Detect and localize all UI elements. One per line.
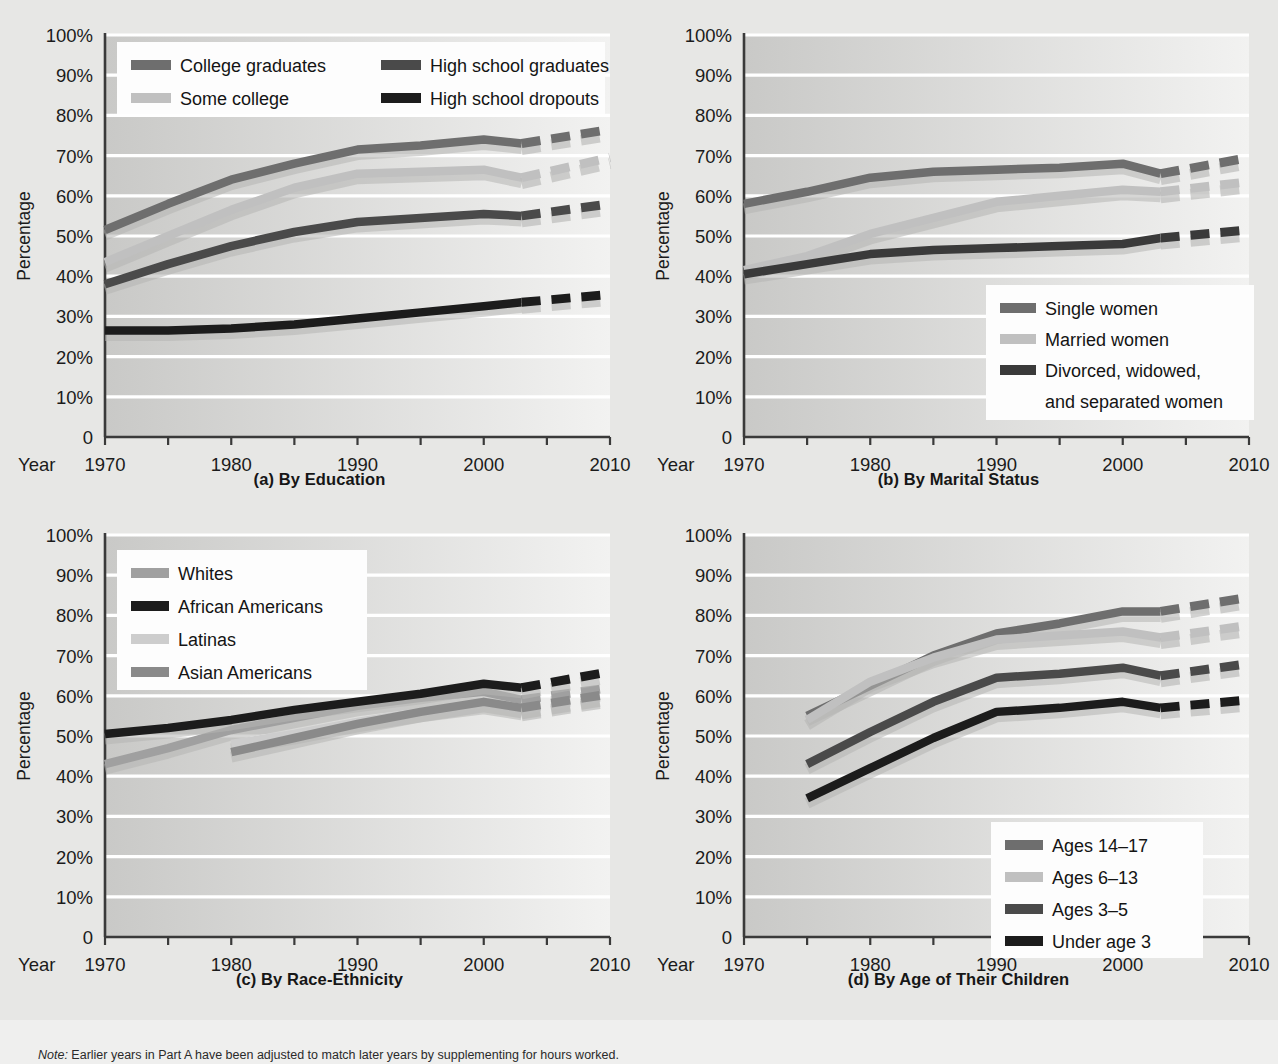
y-tick-label: 20% — [695, 347, 732, 368]
y-tick-label: 40% — [695, 766, 732, 787]
legend-label: College graduates — [180, 56, 326, 76]
note-text: Earlier years in Part A have been adjust… — [68, 1048, 619, 1062]
legend-a: College graduatesHigh school graduatesSo… — [117, 42, 609, 114]
legend-label: High school graduates — [430, 56, 609, 76]
y-tick-label: 20% — [56, 847, 93, 868]
legend-swatch — [131, 93, 171, 103]
legend-label: and separated women — [1045, 392, 1223, 412]
legend-swatch — [131, 667, 169, 677]
chart-svg-c: 100%90%80%70%60%50%40%30%20%10%0Percenta… — [0, 500, 639, 1000]
y-axis-label: Percentage — [14, 191, 34, 281]
legend-swatch — [1005, 840, 1043, 850]
panel-d: 100%90%80%70%60%50%40%30%20%10%0Percenta… — [639, 500, 1278, 1000]
y-tick-label: 40% — [56, 266, 93, 287]
y-tick-label: 70% — [695, 146, 732, 167]
chart-svg-b: 100%90%80%70%60%50%40%30%20%10%0Percenta… — [639, 0, 1278, 500]
legend-c: WhitesAfrican AmericansLatinasAsian Amer… — [117, 550, 367, 690]
y-tick-label: 50% — [695, 226, 732, 247]
y-tick-label: 100% — [685, 525, 732, 546]
y-tick-label: 80% — [56, 605, 93, 626]
y-tick-label: 100% — [46, 525, 93, 546]
panel-b: 100%90%80%70%60%50%40%30%20%10%0Percenta… — [639, 0, 1278, 500]
legend-swatch — [1000, 365, 1036, 375]
legend-swatch — [131, 634, 169, 644]
y-tick-label: 60% — [695, 686, 732, 707]
legend-swatch — [381, 60, 421, 70]
legend-swatch — [1005, 904, 1043, 914]
legend-swatch — [1005, 936, 1043, 946]
legend-swatch — [131, 601, 169, 611]
y-tick-label: 80% — [695, 105, 732, 126]
legend-label: Under age 3 — [1052, 932, 1151, 952]
y-tick-label: 60% — [56, 186, 93, 207]
y-tick-label: 10% — [695, 387, 732, 408]
legend-swatch — [1000, 334, 1036, 344]
y-tick-label: 50% — [56, 726, 93, 747]
y-tick-label: 50% — [695, 726, 732, 747]
y-tick-label: 10% — [56, 887, 93, 908]
y-tick-label: 50% — [56, 226, 93, 247]
panel-b-caption: (b) By Marital Status — [639, 470, 1278, 489]
y-tick-label: 20% — [695, 847, 732, 868]
legend-label: Whites — [178, 564, 233, 584]
legend-label: Married women — [1045, 330, 1169, 350]
y-tick-label: 0 — [83, 927, 93, 948]
y-tick-label: 60% — [56, 686, 93, 707]
note-prefix: Note: — [38, 1048, 68, 1062]
panel-c: 100%90%80%70%60%50%40%30%20%10%0Percenta… — [0, 500, 639, 1000]
y-tick-label: 100% — [685, 25, 732, 46]
y-tick-label: 30% — [695, 806, 732, 827]
legend-label: Ages 3–5 — [1052, 900, 1128, 920]
legend-label: Single women — [1045, 299, 1158, 319]
legend-label: Ages 14–17 — [1052, 836, 1148, 856]
y-tick-label: 30% — [56, 806, 93, 827]
legend-swatch — [131, 568, 169, 578]
chart-svg-a: 100%90%80%70%60%50%40%30%20%10%0Percenta… — [0, 0, 639, 500]
figure-note: Note: Earlier years in Part A have been … — [38, 1048, 1248, 1064]
legend-label: Some college — [180, 89, 289, 109]
panel-a-caption: (a) By Education — [0, 470, 639, 489]
legend-label: Asian Americans — [178, 663, 312, 683]
y-tick-label: 40% — [56, 766, 93, 787]
y-tick-label: 0 — [722, 427, 732, 448]
y-tick-label: 10% — [56, 387, 93, 408]
y-tick-label: 0 — [83, 427, 93, 448]
legend-b: Single womenMarried womenDivorced, widow… — [986, 285, 1254, 420]
legend-swatch — [381, 93, 421, 103]
legend-label: High school dropouts — [430, 89, 599, 109]
legend-label: Ages 6–13 — [1052, 868, 1138, 888]
y-axis-label: Percentage — [14, 691, 34, 781]
figure-four-panel-chart: 100%90%80%70%60%50%40%30%20%10%0Percenta… — [0, 0, 1278, 1020]
y-axis-label: Percentage — [653, 191, 673, 281]
y-tick-label: 30% — [56, 306, 93, 327]
y-tick-label: 0 — [722, 927, 732, 948]
y-tick-label: 10% — [695, 887, 732, 908]
legend-d: Ages 14–17Ages 6–13Ages 3–5Under age 3 — [991, 822, 1203, 958]
y-tick-label: 90% — [695, 65, 732, 86]
panel-d-caption: (d) By Age of Their Children — [639, 970, 1278, 989]
legend-label: Latinas — [178, 630, 236, 650]
y-tick-label: 30% — [695, 306, 732, 327]
panel-c-caption: (c) By Race-Ethnicity — [0, 970, 639, 989]
y-tick-label: 80% — [695, 605, 732, 626]
chart-svg-d: 100%90%80%70%60%50%40%30%20%10%0Percenta… — [639, 500, 1278, 1000]
y-axis-label: Percentage — [653, 691, 673, 781]
y-tick-label: 70% — [56, 646, 93, 667]
panel-a: 100%90%80%70%60%50%40%30%20%10%0Percenta… — [0, 0, 639, 500]
legend-item: and separated women — [1045, 392, 1223, 412]
legend-swatch — [1000, 303, 1036, 313]
y-tick-label: 90% — [56, 565, 93, 586]
legend-swatch — [1005, 872, 1043, 882]
y-tick-label: 100% — [46, 25, 93, 46]
legend-swatch — [131, 60, 171, 70]
y-tick-label: 90% — [695, 565, 732, 586]
y-tick-label: 80% — [56, 105, 93, 126]
y-tick-label: 60% — [695, 186, 732, 207]
legend-label: African Americans — [178, 597, 323, 617]
legend-label: Divorced, widowed, — [1045, 361, 1201, 381]
y-tick-label: 40% — [695, 266, 732, 287]
y-tick-label: 70% — [56, 146, 93, 167]
y-tick-label: 90% — [56, 65, 93, 86]
y-tick-label: 70% — [695, 646, 732, 667]
y-tick-label: 20% — [56, 347, 93, 368]
